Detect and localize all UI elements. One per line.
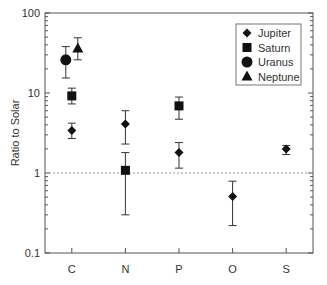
y-tick-label: 10 [28,87,40,99]
x-tick-label: P [175,263,182,275]
square-marker [243,43,252,52]
legend: JupiterSaturnUranusNeptune [236,24,301,85]
diamond-marker [67,126,76,135]
legend-label: Uranus [258,56,294,68]
x-tick-label: O [228,263,237,275]
circle-marker [242,57,253,68]
square-marker [121,166,130,175]
y-axis-label: Ratio to Solar [9,99,21,166]
x-tick-label: C [68,263,76,275]
diamond-marker [121,119,130,128]
diamond-marker [175,148,184,157]
abundance-chart: 1001010.1CNPOS JupiterSaturnUranusNeptun… [0,0,327,285]
diamond-marker [228,192,237,201]
triangle-marker [72,42,83,52]
square-marker [175,101,184,110]
x-tick-label: S [283,263,290,275]
y-tick-label: 100 [22,7,40,19]
y-tick-label: 0.1 [25,247,40,259]
square-marker [67,91,76,100]
legend-label: Saturn [258,42,290,54]
y-tick-label: 1 [34,167,40,179]
x-tick-label: N [121,263,129,275]
circle-marker [60,54,71,65]
legend-label: Neptune [258,71,300,83]
legend-label: Jupiter [258,27,291,39]
